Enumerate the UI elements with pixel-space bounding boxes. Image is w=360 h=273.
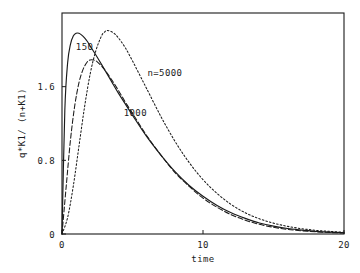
x-tick-label: 0	[59, 240, 65, 250]
x-axis-label: time	[191, 254, 214, 264]
x-tick-label: 10	[197, 240, 209, 250]
y-tick-label: 1.6	[38, 82, 55, 92]
chart-figure: 0102000.81.6 150n=50001000 time q*K1/ (n…	[0, 0, 360, 273]
series-annotation: n=5000	[147, 68, 182, 78]
series-annotation: 1000	[124, 108, 147, 118]
y-tick-label: 0	[49, 230, 55, 240]
series-annotation: 150	[76, 42, 93, 52]
x-tick-label: 20	[338, 240, 350, 250]
y-axis-label: q*K1/ (n+K1)	[17, 88, 27, 158]
y-tick-label: 0.8	[38, 156, 55, 166]
